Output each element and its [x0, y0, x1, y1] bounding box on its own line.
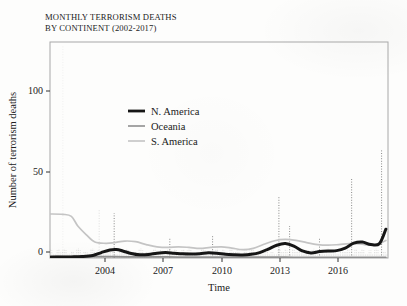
y-tick-label-100: 100: [28, 85, 43, 96]
x-tick-label-2010: 2010: [212, 265, 232, 276]
x-tick-label-2004: 2004: [95, 265, 115, 276]
x-tick-label-2016: 2016: [328, 265, 348, 276]
legend-label-oceania: Oceania: [151, 121, 186, 132]
y-tick-label-50: 50: [33, 166, 43, 177]
plot-frame: [50, 42, 388, 258]
y-axis: 0 50 100 Number of terrorism deaths: [7, 85, 50, 257]
x-axis: 2004 2007 2010 2013 2016 Time: [95, 258, 348, 293]
legend-label-n-america: N. America: [151, 106, 200, 117]
chart-legend: N. America Oceania S. America: [128, 106, 200, 147]
series-lines: [50, 214, 386, 257]
legend-label-s-america: S. America: [151, 136, 198, 147]
x-tick-label-2013: 2013: [270, 265, 290, 276]
x-axis-title: Time: [208, 282, 230, 293]
y-tick-label-0: 0: [38, 246, 43, 257]
y-axis-title: Number of terrorism deaths: [7, 92, 18, 208]
series-line-oceania: [50, 256, 386, 257]
raw-data-spikes: [50, 45, 387, 258]
chart-plot: 0 50 100 Number of terrorism deaths 2004…: [0, 0, 407, 306]
chart-page: MONTHLY TERRORISM DEATHS BY CONTINENT (2…: [0, 0, 407, 306]
series-line-s-america: [50, 214, 386, 250]
x-tick-label-2007: 2007: [153, 265, 173, 276]
